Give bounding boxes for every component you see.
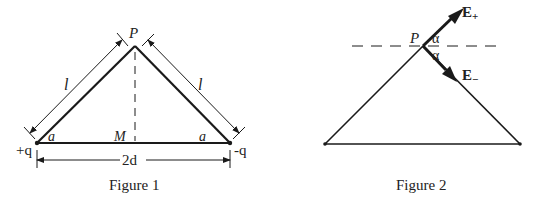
- left-dimension-tick-bottom: [24, 127, 35, 139]
- right-angle-label: a: [199, 129, 206, 144]
- left-side: [325, 46, 423, 144]
- left-side-label-l: l: [64, 76, 69, 93]
- diagram-canvas: P l l a a M +q -q 2d Figure 1 P α α E+ E…: [0, 0, 536, 204]
- e-plus-label: E+: [462, 4, 478, 22]
- right-length-dimension: [148, 40, 239, 133]
- lower-angle-alpha: α: [432, 48, 440, 63]
- apex-label-p: P: [128, 25, 138, 41]
- left-angle-label: a: [48, 129, 55, 144]
- midpoint-label-m: M: [113, 129, 127, 144]
- e-minus-label: E−: [462, 67, 478, 85]
- base-length-label: 2d: [122, 152, 138, 168]
- right-side: [135, 46, 230, 143]
- left-length-dimension: [30, 40, 122, 133]
- figure-1: P l l a a M +q -q 2d Figure 1: [16, 25, 247, 193]
- positive-charge-label: +q: [16, 142, 32, 158]
- right-side-label-l: l: [198, 76, 203, 93]
- apex-label-p: P: [409, 30, 419, 46]
- negative-charge-dot: [228, 141, 232, 145]
- negative-charge-label: -q: [234, 142, 247, 158]
- positive-charge-dot: [35, 141, 39, 145]
- figure-1-caption: Figure 1: [109, 177, 159, 193]
- figure-2: P α α E+ E− Figure 2: [323, 4, 522, 193]
- figure-2-caption: Figure 2: [396, 177, 446, 193]
- left-vertex-dot: [323, 142, 327, 146]
- right-vertex-dot: [518, 142, 522, 146]
- upper-angle-alpha: α: [432, 31, 440, 46]
